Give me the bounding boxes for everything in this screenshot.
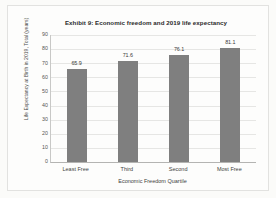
x-axis-category-label: Most Free [204, 166, 255, 172]
y-axis-tick-label: 0 [32, 159, 48, 164]
bar-slot: 76.1 [154, 35, 205, 162]
y-axis-tick-label: 10 [32, 145, 48, 150]
y-axis-tick-labels: 0102030405060708090 [30, 35, 48, 162]
y-axis-tick-label: 90 [32, 32, 48, 37]
bar-value-label: 71.6 [123, 53, 134, 58]
x-axis-category-label: Least Free [50, 166, 101, 172]
bar[interactable] [220, 48, 240, 162]
x-axis-category-label: Third [101, 166, 152, 172]
chart-container: Exhibit 9: Economic freedom and 2019 lif… [7, 5, 269, 191]
y-axis-tick-label: 80 [32, 46, 48, 51]
bar[interactable] [169, 55, 189, 162]
plot-area: 65.971.676.181.1 [50, 35, 256, 163]
y-axis-title: Life Expectancy at Birth in 2019, Total … [23, 4, 29, 134]
y-axis-tick-label: 50 [32, 89, 48, 94]
bar-value-label: 81.1 [225, 40, 236, 45]
x-axis-title: Economic Freedom Quartile [50, 178, 255, 184]
y-axis-tick-label: 40 [32, 103, 48, 108]
page-background: Exhibit 9: Economic freedom and 2019 lif… [0, 0, 276, 198]
bar-value-label: 65.9 [71, 61, 82, 66]
x-axis-category-labels: Least FreeThirdSecondMost Free [50, 166, 255, 176]
y-axis-tick-label: 20 [32, 131, 48, 136]
y-axis-tick-label: 30 [32, 117, 48, 122]
bar-slot: 81.1 [205, 35, 256, 162]
bar-value-label: 76.1 [174, 47, 185, 52]
bar[interactable] [118, 61, 138, 162]
bar-slot: 65.9 [51, 35, 102, 162]
chart-title: Exhibit 9: Economic freedom and 2019 lif… [8, 19, 276, 26]
y-axis-tick-label: 70 [32, 61, 48, 66]
bar-slot: 71.6 [102, 35, 153, 162]
x-axis-category-label: Second [153, 166, 204, 172]
y-axis-tick-label: 60 [32, 75, 48, 80]
bar[interactable] [67, 69, 87, 162]
